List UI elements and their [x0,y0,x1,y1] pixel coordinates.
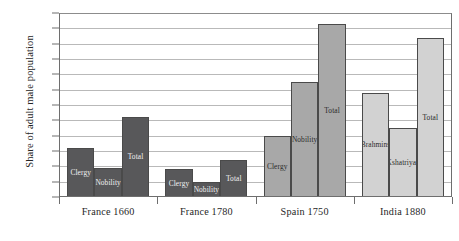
plot-area: ClergyNobilityTotalClergyNobilityTotalCl… [59,13,452,197]
y-tick-mark [52,135,59,136]
x-axis-tick [452,197,453,204]
x-axis-category-label: India 1880 [380,206,426,217]
y-tick-mark [52,166,59,167]
bar-chart: Share of adult male population 0%1%2%3%4… [0,0,459,241]
x-axis-category-label: France 1660 [82,206,135,217]
x-axis-tick [256,197,257,204]
y-tick-mark [52,13,59,14]
y-tick-mark [52,74,59,75]
y-tick-mark [52,28,59,29]
y-tick-mark [52,59,59,60]
y-tick-mark [52,43,59,44]
plot-frame [59,13,452,197]
y-tick-mark [52,105,59,106]
y-tick-mark [52,181,59,182]
y-tick-mark [52,197,59,198]
y-axis-title: Share of adult male population [24,12,35,192]
x-axis-tick [59,197,60,204]
y-tick-mark [52,120,59,121]
x-axis-tick [354,197,355,204]
y-tick-mark [52,151,59,152]
x-axis-tick [157,197,158,204]
y-tick-mark [52,89,59,90]
x-axis-category-label: France 1780 [180,206,233,217]
x-axis-category-label: Spain 1750 [281,206,329,217]
